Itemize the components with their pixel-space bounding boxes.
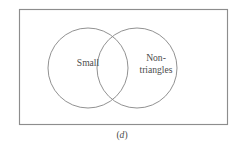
set-label-non-triangles-line2: triangles <box>139 64 172 75</box>
venn-diagram-canvas: Small Non- triangles (d) <box>0 0 243 145</box>
venn-diagram-figure: Small Non- triangles (d) <box>0 0 243 145</box>
universal-set-rectangle <box>20 10 228 125</box>
set-label-non-triangles-line1: Non- <box>146 52 166 63</box>
figure-caption: (d) <box>116 129 127 141</box>
set-label-small: Small <box>77 57 100 68</box>
caption-close-paren: ) <box>124 129 127 141</box>
